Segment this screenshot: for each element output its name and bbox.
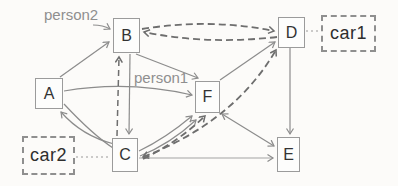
edge-c-to-f-2 [140,120,196,156]
node-f[interactable]: F [195,81,220,113]
node-f-label: F [203,88,213,106]
node-car1[interactable]: car1 [321,15,376,52]
edge-c-to-b-dashed [117,57,119,136]
node-e-label: E [283,146,294,164]
node-car1-label: car1 [330,23,367,44]
edge-f-to-d [220,42,275,80]
node-d-label: D [286,24,298,42]
graph-diagram: A B C D E F car1 car2 person2 person1 [0,0,398,186]
annotation-arrow-person2-to-b [93,25,110,29]
node-b-label: B [121,27,132,45]
edge-a-to-f [64,86,192,95]
edge-d-to-b-dashed [144,32,277,40]
node-a[interactable]: A [35,78,63,109]
edge-a-to-b [60,42,109,77]
edge-f-e-bidirectional [222,114,274,146]
node-c[interactable]: C [112,138,138,172]
node-b[interactable]: B [113,18,140,53]
node-e[interactable]: E [277,137,300,172]
node-d[interactable]: D [278,17,305,48]
edge-b-to-d-dashed [142,24,274,31]
node-a-label: A [44,85,55,103]
edge-b-to-c [129,54,130,134]
node-car2-label: car2 [30,145,67,166]
node-c-label: C [119,146,131,164]
node-car2[interactable]: car2 [22,136,75,175]
annotation-person2: person2 [44,6,98,23]
annotation-person1: person1 [134,69,188,86]
